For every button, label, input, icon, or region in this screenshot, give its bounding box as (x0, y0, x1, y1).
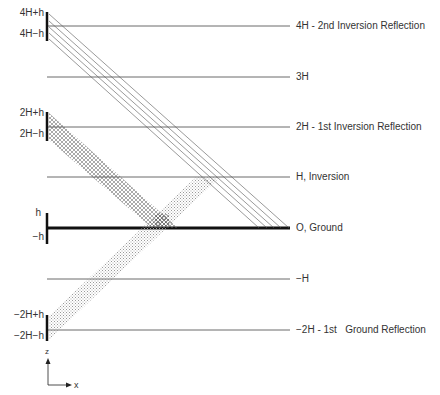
label-level-3H: 3H (296, 71, 309, 83)
label-level-2H: 2H - 1st Inversion Reflection (296, 121, 422, 133)
label-level-minus-H: −H (296, 273, 309, 285)
axes-indicator (46, 358, 73, 388)
label-level-H: H, Inversion (296, 171, 349, 183)
label-source-2H-minus-h: 2H−h (0, 128, 44, 140)
label-z-axis: z (45, 346, 49, 358)
label-source-minus-2H-plus-h: −2H+h (0, 309, 44, 321)
label-source-4H-minus-h: 4H−h (0, 28, 44, 40)
x-arrowhead-icon (66, 383, 72, 388)
label-level-4H: 4H - 2nd Inversion Reflection (296, 20, 425, 32)
inversion-reflection-plume (49, 113, 178, 228)
label-source-h: h (0, 207, 41, 219)
label-source-minus-h: −h (0, 231, 44, 243)
z-arrowhead-icon (46, 358, 51, 364)
crosshatch-detail (155, 214, 169, 226)
label-source-minus-2H-minus-h: −2H−h (0, 330, 44, 342)
label-source-2H-plus-h: 2H+h (0, 107, 44, 119)
second-reflection-rays (49, 14, 289, 228)
label-source-4H-plus-h: 4H+h (0, 7, 44, 19)
label-x-axis: x (74, 379, 79, 391)
label-level-minus-2H: −2H - 1st Ground Reflection (296, 324, 426, 336)
label-level-ground: O, Ground (296, 222, 343, 234)
